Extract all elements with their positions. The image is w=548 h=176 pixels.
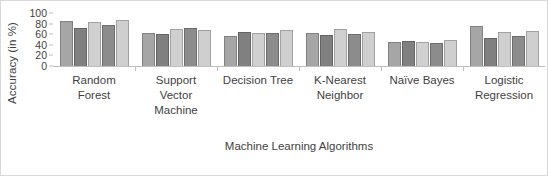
bar [348, 34, 361, 66]
bar [484, 38, 497, 66]
x-axis-label-line: K-Nearest [299, 73, 381, 88]
bar [388, 42, 401, 66]
bar [526, 31, 539, 66]
y-axis-tick-60: 60 [35, 29, 47, 40]
x-axis-group-separator [135, 66, 136, 71]
bar [280, 30, 293, 66]
x-axis-category-labels: RandomForestSupportVectorMachineDecision… [53, 73, 545, 135]
bar [224, 36, 237, 66]
bar [266, 33, 279, 66]
y-axis-tick-80: 80 [35, 18, 47, 29]
y-axis-tick-0: 0 [41, 61, 47, 72]
x-axis-group-separator [299, 66, 300, 71]
bar [142, 33, 155, 66]
bar [306, 33, 319, 66]
bar-group [463, 13, 545, 66]
x-axis-label-2: SupportVectorMachine [135, 73, 217, 118]
x-axis-label-6: LogisticRegression [463, 73, 545, 103]
bar-group [135, 13, 217, 66]
x-axis-label-line: Random [53, 73, 135, 88]
y-axis-tick-20: 20 [35, 50, 47, 61]
x-axis-label-5: Naïve Bayes [381, 73, 463, 88]
y-axis-title-text: Accuracy (in %) [6, 22, 18, 104]
x-axis-title: Machine Learning Algorithms [53, 140, 545, 152]
x-axis-label-3: Decision Tree [217, 73, 299, 88]
bar [60, 21, 73, 66]
bar [252, 33, 265, 66]
bar [102, 25, 115, 66]
y-axis-tick-labels: 020406080100 [21, 8, 49, 70]
x-axis-group-separator [463, 66, 464, 71]
bar-group [217, 13, 299, 66]
bar-chart-figure: Accuracy (in %) 020406080100 RandomFores… [0, 0, 548, 176]
x-axis-label-line: Machine [135, 103, 217, 118]
y-axis-tickmark [49, 44, 53, 45]
x-axis-group-separator [381, 66, 382, 71]
x-axis-group-separator [217, 66, 218, 71]
x-axis-label-line: Neighbor [299, 88, 381, 103]
bar [416, 42, 429, 66]
bar [170, 29, 183, 66]
x-axis-label-line: Vector [135, 88, 217, 103]
y-axis-tickmark [49, 13, 53, 14]
y-axis-title: Accuracy (in %) [1, 1, 23, 125]
bar [470, 26, 483, 66]
bar [512, 36, 525, 66]
x-axis-label-line: Regression [463, 88, 545, 103]
bar [88, 22, 101, 66]
bar [116, 20, 129, 66]
bar [444, 40, 457, 67]
y-axis-tick-40: 40 [35, 40, 47, 51]
y-axis-tickmark [49, 34, 53, 35]
bar [334, 29, 347, 66]
y-axis-tickmark [49, 66, 53, 67]
bar [498, 32, 511, 66]
x-axis-label-line: Naïve Bayes [381, 73, 463, 88]
bar [238, 32, 251, 66]
bar [74, 28, 87, 66]
x-axis-label-line: Forest [53, 88, 135, 103]
x-axis-label-line: Support [135, 73, 217, 88]
bar-group [53, 13, 135, 66]
bar [402, 41, 415, 66]
bar [362, 32, 375, 66]
bar-group [381, 13, 463, 66]
bar [430, 43, 443, 66]
bar [198, 30, 211, 66]
bar [184, 28, 197, 66]
x-axis-label-4: K-NearestNeighbor [299, 73, 381, 103]
bar [156, 34, 169, 66]
bar [320, 35, 333, 66]
x-axis-label-1: RandomForest [53, 73, 135, 103]
y-axis-tickmark [49, 23, 53, 24]
x-axis-label-line: Decision Tree [217, 73, 299, 88]
y-axis-tickmark [49, 55, 53, 56]
plot-area [53, 13, 545, 66]
x-axis-label-line: Logistic [463, 73, 545, 88]
bar-group [299, 13, 381, 66]
y-axis-tick-100: 100 [29, 8, 47, 19]
